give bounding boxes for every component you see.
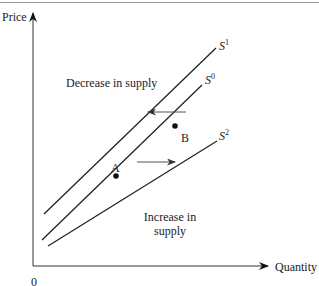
supply-curve-s1 xyxy=(44,48,216,214)
decrease-annotation: Decrease in supply xyxy=(66,77,157,89)
curve-label-s2: S2 xyxy=(219,129,229,142)
point-b-label: B xyxy=(181,132,189,144)
y-axis-label: Price xyxy=(2,11,27,23)
point-b xyxy=(172,123,178,129)
origin-label: 0 xyxy=(31,276,37,286)
increase-annotation-line2: supply xyxy=(140,224,200,238)
curve-label-s0: S0 xyxy=(205,73,215,86)
supply-diagram xyxy=(0,0,319,286)
increase-annotation: Increase in supply xyxy=(140,210,200,238)
increase-annotation-line1: Increase in xyxy=(140,210,200,224)
x-axis-label: Quantity xyxy=(275,261,317,273)
curve-label-s1: S1 xyxy=(219,39,229,52)
point-a-label: A xyxy=(111,162,120,174)
